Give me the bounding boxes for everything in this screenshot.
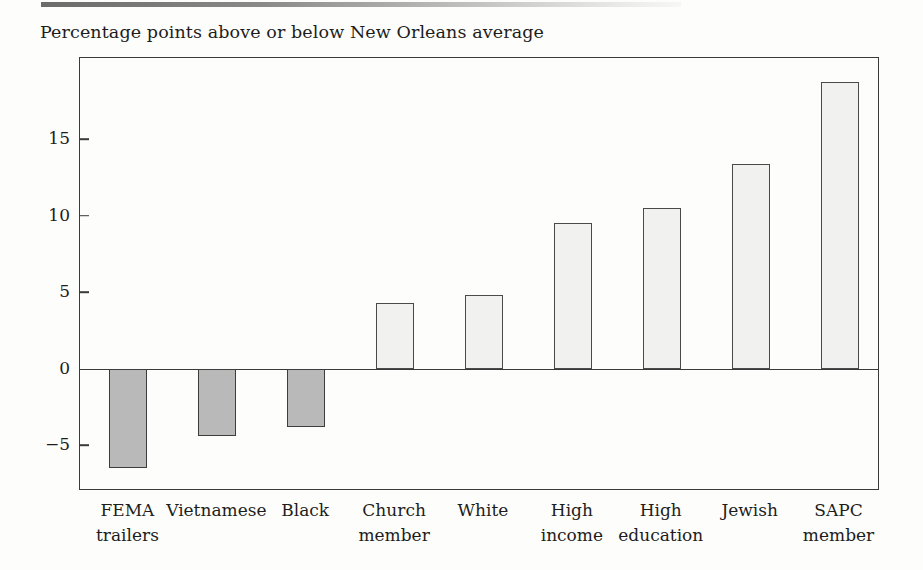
bar xyxy=(732,164,770,369)
x-axis-category-label: Churchmember xyxy=(358,498,429,548)
y-axis-tick-mark xyxy=(80,138,89,140)
x-axis-category-label: Vietnamese xyxy=(166,498,266,523)
plot-frame xyxy=(79,57,879,490)
x-axis-category-label: SAPCmember xyxy=(803,498,874,548)
y-axis-tick-label: 10 xyxy=(48,205,70,225)
bar xyxy=(287,369,325,427)
x-axis-category-label: Highincome xyxy=(541,498,603,548)
y-axis-tick-labels: 151050−5 xyxy=(24,57,70,490)
x-axis-category-label: FEMAtrailers xyxy=(96,498,159,548)
top-divider-rule xyxy=(41,2,681,7)
x-axis-category-label: Higheducation xyxy=(618,498,703,548)
x-axis-category-label: Black xyxy=(281,498,329,523)
y-axis-tick-label: 0 xyxy=(59,358,70,378)
bar xyxy=(554,223,592,368)
bar xyxy=(821,82,859,368)
bar xyxy=(465,295,503,368)
bar xyxy=(109,369,147,468)
bar xyxy=(643,208,681,369)
x-axis-category-labels: FEMAtrailersVietnameseBlackChurchmemberW… xyxy=(79,498,879,560)
y-axis-tick-mark xyxy=(80,215,89,217)
bar xyxy=(198,369,236,436)
y-axis-tick-label: 5 xyxy=(59,281,70,301)
plot-area xyxy=(80,58,878,489)
y-axis-tick-label: −5 xyxy=(45,434,70,454)
chart-caption: Percentage points above or below New Orl… xyxy=(40,22,544,42)
y-axis-tick-mark xyxy=(80,291,89,293)
y-axis-tick-label: 15 xyxy=(48,128,70,148)
bar xyxy=(376,303,414,369)
x-axis-category-label: White xyxy=(458,498,509,523)
x-axis-category-label: Jewish xyxy=(721,498,778,523)
chart-figure: Percentage points above or below New Orl… xyxy=(0,0,923,570)
y-axis-tick-mark xyxy=(80,444,89,446)
